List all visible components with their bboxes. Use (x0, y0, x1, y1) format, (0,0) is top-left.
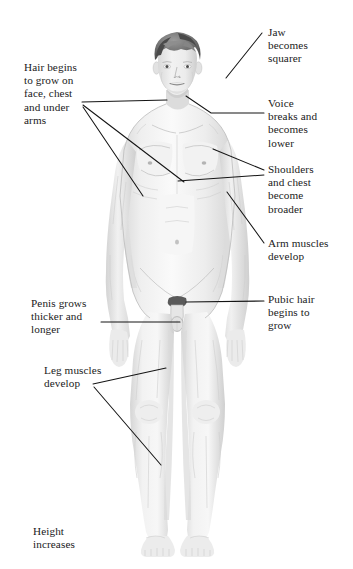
leader-line-shoulder-upper (213, 149, 264, 170)
leader-line-jaw (226, 33, 262, 78)
diagram-canvas: Jaw becomes squarer Hair begins to grow … (0, 0, 353, 569)
leader-line-shoulder-lower (178, 175, 264, 181)
leader-line-hair-chest (83, 105, 184, 182)
leader-line-pubic (186, 301, 264, 302)
leader-line-hair-face (82, 100, 167, 102)
leader-line-voice (186, 96, 264, 113)
leader-lines (0, 0, 353, 569)
leader-line-arm (227, 192, 264, 243)
leader-line-hair-arm (83, 107, 143, 196)
leader-line-leg-upper (93, 368, 166, 384)
leader-line-leg-lower (94, 387, 161, 465)
